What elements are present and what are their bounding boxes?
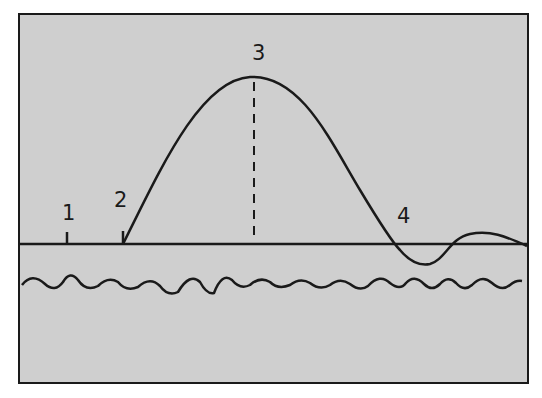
label-1: 1 (62, 203, 75, 224)
label-2: 2 (114, 190, 127, 211)
label-3: 3 (252, 43, 265, 64)
label-4: 4 (397, 206, 410, 227)
noise-wave (22, 275, 522, 293)
diagram-canvas: 1 2 3 4 (0, 0, 542, 398)
waveform-graphic (0, 0, 542, 398)
main-wave (123, 77, 527, 265)
